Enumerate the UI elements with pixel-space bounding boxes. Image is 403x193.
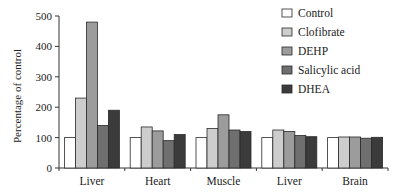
x-category-label: Liver [79,175,104,187]
bar [64,138,75,168]
legend: ControlClofibrateDEHPSalicylic acidDHEA [282,7,361,95]
legend-swatch [282,85,292,93]
bar [262,138,273,168]
bar [141,127,152,168]
legend-label: Control [298,7,333,19]
bar [339,137,350,168]
y-axis: 0100200300400500 [36,10,60,174]
y-tick-label: 0 [47,162,53,174]
bar [86,22,97,168]
bar [306,137,317,168]
bar [196,138,207,168]
legend-label: Clofibrate [298,26,345,38]
bar [361,138,372,168]
bar [130,138,141,168]
y-axis-title: Percentage of control [11,49,23,143]
bar [295,135,306,168]
legend-label: Salicylic acid [298,64,361,77]
y-tick-label: 400 [36,40,53,52]
y-tick-label: 500 [36,10,53,22]
x-category-label: Brain [342,175,368,187]
bar [75,98,86,168]
bar [108,110,119,168]
bar [163,141,174,168]
bar [218,115,229,168]
bar [273,130,284,168]
bar [229,130,240,168]
legend-swatch [282,28,292,36]
legend-label: DHEA [298,83,331,95]
bar [97,125,108,168]
bars [64,22,382,168]
bar [174,135,185,168]
bar [328,138,339,168]
bar [152,131,163,168]
legend-swatch [282,9,292,17]
bar [350,137,361,168]
y-tick-label: 300 [36,71,53,83]
bar [284,132,295,168]
bar [240,132,251,168]
x-category-label: Muscle [207,175,241,187]
y-tick-label: 100 [36,132,53,144]
bar-chart: 0100200300400500 LiverHeartMuscleLiverBr… [0,0,403,193]
x-category-label: Liver [277,175,302,187]
legend-swatch [282,47,292,55]
y-tick-label: 200 [36,101,53,113]
legend-label: DEHP [298,45,328,57]
x-axis: LiverHeartMuscleLiverBrain [59,168,388,187]
bar [207,128,218,168]
bar [372,137,383,168]
legend-swatch [282,66,292,74]
x-category-label: Heart [145,175,171,187]
